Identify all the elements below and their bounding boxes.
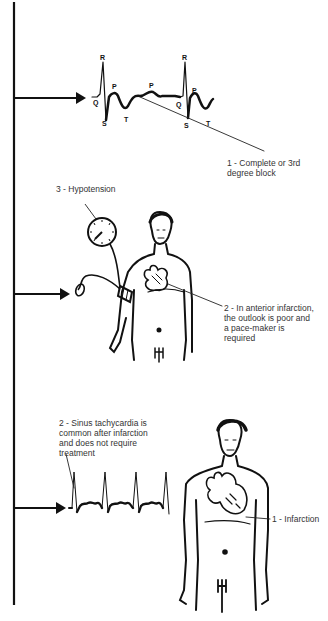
ecg-label-q: Q	[93, 99, 98, 107]
annotation-infarction: 1 - Infarction	[272, 514, 319, 524]
annotation-line: a pace-maker is	[224, 323, 314, 333]
annotation-line: common after infarction	[59, 428, 148, 438]
ecg-label-r: R	[182, 54, 187, 62]
annotation-line: degree block	[227, 168, 300, 178]
arrow-2-icon	[14, 288, 70, 300]
ecg-label-p: P	[112, 83, 117, 91]
annotation-line: required	[224, 333, 314, 343]
patient-figure-1	[110, 212, 222, 362]
annotation-line: 2 - Sinus tachycardia is	[59, 418, 148, 428]
arrow-1-icon	[14, 92, 86, 104]
blood-pressure-gauge-icon	[74, 204, 120, 297]
ecg-label-q: Q	[176, 101, 181, 109]
diagram-canvas: R Q P S T P R Q P S T 1 - Complete or 3r…	[0, 0, 328, 621]
annotation-hypotension: 3 - Hypotension	[56, 184, 116, 194]
ecg-label-p: P	[149, 82, 154, 90]
ecg-label-s: S	[184, 122, 189, 130]
annotation-line: 2 - In anterior infarction,	[224, 303, 314, 313]
annotation-line: 1 - Complete or 3rd	[227, 158, 300, 168]
annotation-line: and does not require	[59, 438, 148, 448]
ecg-label-t: T	[124, 116, 128, 124]
ecg-label-p: P	[192, 87, 197, 95]
patient-figure-2	[180, 420, 270, 612]
annotation-anterior-infarction: 2 - In anterior infarction, the outlook …	[224, 303, 314, 343]
ecg-sinus-tachycardia-trace	[66, 454, 169, 514]
ecg-label-r: R	[100, 54, 105, 62]
arrow-3-icon	[14, 502, 66, 514]
annotation-complete-heart-block: 1 - Complete or 3rd degree block	[227, 158, 300, 178]
annotation-line: the outlook is poor and	[224, 313, 314, 323]
annotation-sinus-tachycardia: 2 - Sinus tachycardia is common after in…	[59, 418, 148, 458]
ecg-label-s: S	[102, 120, 107, 128]
annotation-line: treatment	[59, 448, 148, 458]
ecg-label-t: T	[206, 120, 210, 128]
